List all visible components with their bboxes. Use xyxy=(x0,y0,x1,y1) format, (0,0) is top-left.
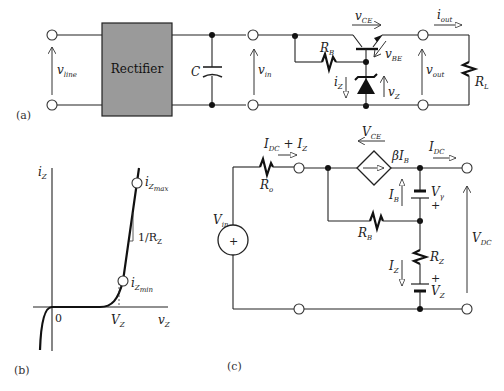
idc-label: IDC xyxy=(428,140,445,156)
slope-label: 1/RZ xyxy=(138,231,162,246)
terminal xyxy=(462,163,472,173)
v-in-label: Vin xyxy=(213,213,229,229)
vz-label: VZ xyxy=(111,313,125,329)
terminal xyxy=(418,30,428,40)
zener-diode xyxy=(357,78,375,94)
ro-label: Ro xyxy=(259,178,273,194)
v-z-label: VZ xyxy=(431,284,445,300)
node-dot xyxy=(363,103,369,109)
node-dot xyxy=(209,102,215,108)
v-dc-label: VDC xyxy=(472,231,492,247)
i-b-label: IB xyxy=(388,188,399,204)
terminal xyxy=(248,100,258,110)
y-axis-label: iZ xyxy=(38,165,47,181)
rectifier-label: Rectifier xyxy=(111,62,164,76)
figure-c-equivalent-circuit: + Vin Ro IDC + IZ βIB VCE IDC RB xyxy=(213,125,492,373)
resistor-rl xyxy=(463,62,475,76)
source-plus: + xyxy=(229,235,238,248)
v-be-label: vBE xyxy=(385,47,402,63)
caption-c: (c) xyxy=(227,360,242,373)
v-ce-label: vCE xyxy=(355,9,372,25)
v-z-label: vZ xyxy=(388,85,400,101)
figure-b-zener-iv-curve: iZ vZ 0 VZ 1/RZ iZmax iZmin (b) xyxy=(14,165,170,377)
i-z-label: IZ xyxy=(388,259,399,275)
caption-a: (a) xyxy=(16,109,31,122)
v-gamma-plus: + xyxy=(431,199,440,212)
x-axis-label: vZ xyxy=(158,313,170,329)
iz-max-point xyxy=(132,178,142,188)
origin-label: 0 xyxy=(55,312,62,325)
node-dot xyxy=(363,59,369,65)
resistor-rb xyxy=(370,213,383,229)
rb-label: RB xyxy=(319,41,334,57)
iz-max-label: iZmax xyxy=(145,175,169,193)
capacitor-label: C xyxy=(191,65,200,79)
terminal xyxy=(248,30,258,40)
v-in-label: vin xyxy=(258,63,272,79)
figure-a-regulator-circuit: vline Rectifier C vin RB xyxy=(16,8,489,122)
i-out-label: iout xyxy=(437,8,453,24)
node-dot xyxy=(209,32,215,38)
terminal xyxy=(462,304,472,314)
terminal xyxy=(294,163,304,173)
v-out-label: vout xyxy=(426,63,445,79)
resistor-rz xyxy=(414,250,426,264)
circuit-figure: vline Rectifier C vin RB xyxy=(0,0,504,391)
rl-label: RL xyxy=(474,75,489,91)
beta-ib-label: βIB xyxy=(391,149,409,165)
i-z-label: iZ xyxy=(334,75,343,91)
v-line-label: vline xyxy=(57,63,77,79)
rb-label: RB xyxy=(357,226,372,242)
terminal xyxy=(47,30,57,40)
node-dot xyxy=(417,306,423,312)
v-ce-label: VCE xyxy=(362,125,381,141)
resistor-ro xyxy=(260,159,273,175)
caption-b: (b) xyxy=(14,364,30,377)
terminal xyxy=(418,100,428,110)
iz-min-label: iZmin xyxy=(131,276,154,294)
idc-plus-iz-label: IDC + IZ xyxy=(263,137,307,153)
transistor-collector xyxy=(353,35,362,47)
rz-label: RZ xyxy=(429,250,444,266)
terminal xyxy=(47,100,57,110)
terminal xyxy=(294,304,304,314)
iz-min-point xyxy=(118,276,128,286)
